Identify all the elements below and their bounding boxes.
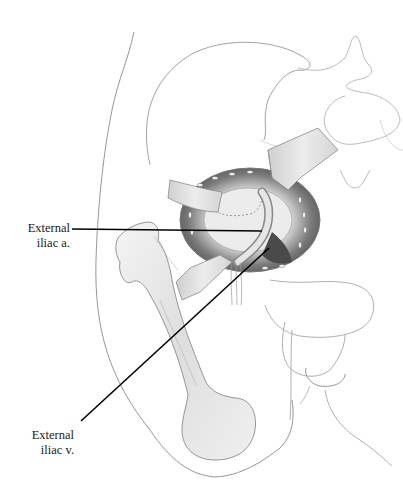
label-line1: External [4,221,70,236]
label-line2: iliac v. [4,443,74,458]
leader-line-vein [81,248,269,421]
coccyx-outline [340,170,370,188]
retractor-top [268,128,338,190]
label-line2: iliac a. [4,236,70,251]
label-external-iliac-vein: External iliac v. [4,428,74,458]
groin-outline [265,280,374,337]
retractor-bottom [176,255,232,300]
label-external-iliac-artery: External iliac a. [4,221,70,251]
sacrum-outline [298,36,400,144]
label-line1: External [4,428,74,443]
